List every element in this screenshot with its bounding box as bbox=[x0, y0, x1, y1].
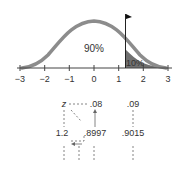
normal-curve-figure: −3 −2 −1 0 1 2 3 90% 10% z .08 .09 1.2 .… bbox=[0, 0, 183, 182]
tick-label: 1 bbox=[116, 74, 121, 84]
tick-label: 3 bbox=[165, 74, 170, 84]
left-area-label: 90% bbox=[84, 43, 104, 54]
flag-icon bbox=[126, 14, 132, 19]
table-header-col1: .08 bbox=[90, 99, 103, 109]
table-cell-col1: .8997 bbox=[84, 128, 107, 138]
table-header-z: z bbox=[61, 99, 67, 109]
tick-label: −1 bbox=[64, 74, 74, 84]
right-area-label: 10% bbox=[126, 58, 144, 68]
table-row-z: 1.2 bbox=[56, 128, 69, 138]
arrow-up-icon bbox=[93, 109, 97, 113]
tick-label: −2 bbox=[40, 74, 50, 84]
z-table: z .08 .09 1.2 .8997 .9015 bbox=[56, 99, 145, 138]
arrow-left-icon bbox=[71, 142, 75, 146]
tick-label: 0 bbox=[91, 74, 96, 84]
table-cell-col2: .9015 bbox=[122, 128, 145, 138]
tick-label: −3 bbox=[15, 74, 25, 84]
tick-label: 2 bbox=[141, 74, 146, 84]
table-header-col2: .09 bbox=[127, 99, 140, 109]
